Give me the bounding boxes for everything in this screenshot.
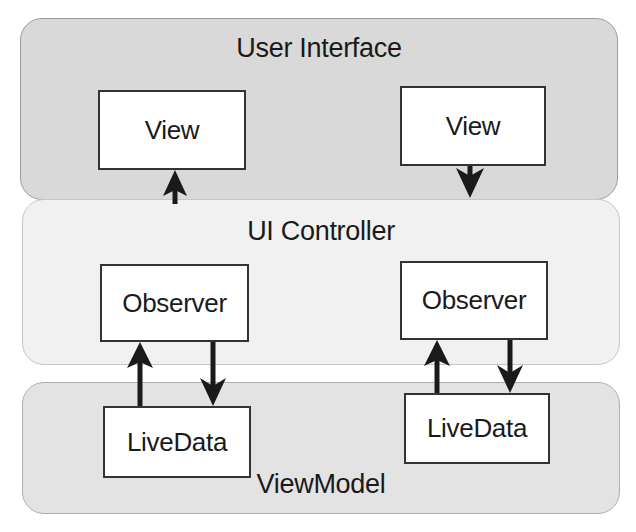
livedata-box-left: LiveData	[103, 406, 251, 478]
observer-box-right: Observer	[400, 261, 548, 340]
livedata-box-right: LiveData	[404, 393, 550, 464]
view-box-left: View	[98, 90, 246, 170]
view-box-right: View	[400, 86, 546, 166]
ui-controller-title: UI Controller	[23, 216, 619, 247]
user-interface-title: User Interface	[21, 33, 617, 64]
observer-box-left: Observer	[100, 264, 249, 342]
